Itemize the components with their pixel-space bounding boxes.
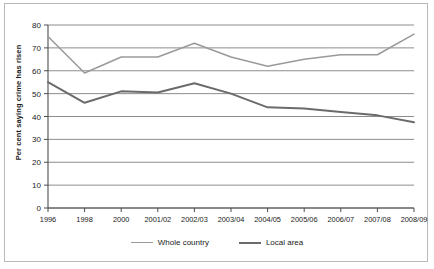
x-tick-label-6: 2004/05 [254, 215, 281, 224]
x-tick-label-0: 1996 [40, 215, 56, 224]
y-tick-label-20: 20 [32, 158, 41, 167]
y-tick-label-30: 30 [32, 135, 41, 144]
y-tick-label-80: 80 [32, 21, 41, 30]
legend-swatch-local-area [239, 242, 261, 244]
y-tick-label-0: 0 [37, 204, 42, 213]
x-tick-label-4: 2002/03 [181, 215, 208, 224]
x-tick-label-1: 1998 [76, 215, 92, 224]
chart-figure: Per cent saying crime has risen 01020304… [0, 0, 434, 269]
x-tick-label-9: 2007/08 [364, 215, 391, 224]
x-tick-label-3: 2001/02 [144, 215, 171, 224]
line-chart-plot: 010203040506070801996199820002001/022002… [0, 0, 434, 269]
legend-label-local-area: Local area [266, 238, 303, 247]
legend-item-local-area: Local area [239, 238, 303, 247]
legend-label-whole-country: Whole country [158, 238, 209, 247]
chart-legend: Whole country Local area [0, 238, 434, 247]
x-tick-label-10: 2008/09 [401, 215, 428, 224]
y-tick-label-50: 50 [32, 90, 41, 99]
x-tick-label-2: 2000 [113, 215, 129, 224]
legend-item-whole-country: Whole country [131, 238, 209, 247]
y-tick-label-70: 70 [32, 44, 41, 53]
y-tick-label-40: 40 [32, 113, 41, 122]
y-tick-label-10: 10 [32, 181, 41, 190]
x-tick-label-8: 2006/07 [327, 215, 354, 224]
legend-swatch-whole-country [131, 242, 153, 243]
x-tick-label-5: 2003/04 [218, 215, 245, 224]
x-tick-label-7: 2005/06 [291, 215, 318, 224]
y-tick-label-60: 60 [32, 67, 41, 76]
